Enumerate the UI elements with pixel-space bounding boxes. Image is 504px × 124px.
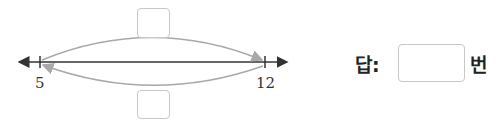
backward-arc (43, 65, 263, 85)
start-label: 5 (35, 74, 45, 92)
answer-suffix: 번 (470, 50, 487, 77)
answer-input-box[interactable] (398, 44, 465, 82)
end-label: 12 (256, 74, 275, 92)
top-answer-box[interactable] (137, 8, 170, 38)
bottom-answer-box[interactable] (137, 90, 170, 119)
answer-prefix: 답: (355, 50, 380, 77)
forward-arc (42, 38, 262, 61)
